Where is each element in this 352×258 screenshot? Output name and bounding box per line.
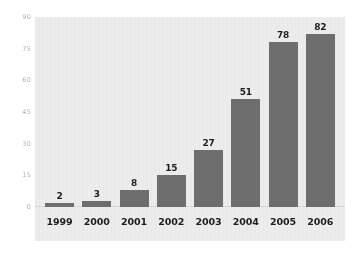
plot-area: 2 3 8 15 27 51: [35, 17, 345, 241]
bar-value-label-1999: 2: [57, 191, 63, 201]
y-tick-label-45: 45: [0, 109, 31, 116]
y-tick-label-90: 90: [0, 14, 31, 21]
bar-group-2005: 78: [265, 17, 302, 207]
bar-2004[interactable]: [231, 99, 260, 207]
bar-value-label-2004: 51: [240, 87, 252, 97]
x-axis: 1999 2000 2001 2002 2003 2004 2005 2006: [35, 215, 345, 229]
y-tick-label-60: 60: [0, 77, 31, 84]
bar-group-2002: 15: [153, 17, 190, 207]
bar-value-label-2001: 8: [131, 178, 137, 188]
x-tick-label-2003: 2003: [190, 215, 227, 229]
bar-value-label-2000: 3: [94, 189, 100, 199]
x-tick-label-2000: 2000: [78, 215, 115, 229]
bar-2001[interactable]: [120, 190, 149, 207]
bar-2002[interactable]: [157, 175, 186, 207]
bar-1999[interactable]: [45, 203, 74, 207]
bar-group-2004: 51: [227, 17, 264, 207]
x-tick-label-2004: 2004: [227, 215, 264, 229]
bar-2006[interactable]: [306, 34, 335, 207]
y-tick-label-spacer: 0: [0, 204, 31, 211]
x-tick-label-2002: 2002: [153, 215, 190, 229]
y-axis: 90 75 60 45 30 15 0: [0, 17, 31, 241]
x-tick-label-1999: 1999: [41, 215, 78, 229]
bar-group-1999: 2: [41, 17, 78, 207]
x-tick-label-2005: 2005: [265, 215, 302, 229]
bar-value-label-2005: 78: [277, 30, 289, 40]
x-tick-label-2006: 2006: [302, 215, 339, 229]
bar-group-2001: 8: [116, 17, 153, 207]
bar-2003[interactable]: [194, 150, 223, 207]
y-tick-label-75: 75: [0, 45, 31, 52]
bar-2000[interactable]: [82, 201, 111, 207]
bar-group-2000: 3: [78, 17, 115, 207]
x-tick-label-2001: 2001: [116, 215, 153, 229]
bar-value-label-2002: 15: [165, 163, 177, 173]
bar-value-label-2003: 27: [203, 138, 215, 148]
bar-group-2006: 82: [302, 17, 339, 207]
bar-chart-figure: 90 75 60 45 30 15 0 2 3 8 15: [0, 0, 352, 258]
y-tick-label-15: 15: [0, 172, 31, 179]
y-tick-label-30: 30: [0, 140, 31, 147]
bar-2005[interactable]: [269, 42, 298, 207]
bar-group-2003: 27: [190, 17, 227, 207]
bars-container: 2 3 8 15 27 51: [35, 17, 345, 207]
bar-value-label-2006: 82: [314, 22, 326, 32]
